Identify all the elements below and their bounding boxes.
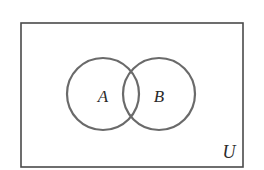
venn-diagram: A B U bbox=[0, 0, 264, 170]
set-a-label: A bbox=[97, 87, 109, 106]
universe-rectangle bbox=[21, 23, 243, 167]
set-b-label: B bbox=[154, 87, 165, 106]
universe-label: U bbox=[223, 142, 237, 162]
